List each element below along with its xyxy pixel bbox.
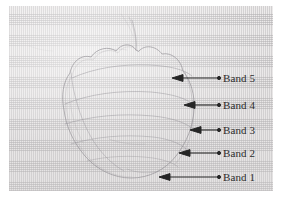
arrowhead-band-2: [179, 150, 190, 157]
leader-arrow-band-4: [184, 102, 221, 109]
figure-annotated-sketch-photo: Band 5 Band 4 Band 3 Band 2 Band 1: [0, 0, 284, 197]
leader-arrow-band-3: [190, 127, 221, 134]
leader-arrow-band-2: [179, 150, 221, 157]
arrowhead-band-4: [184, 102, 195, 109]
leader-dot-band-2: [217, 151, 220, 154]
leader-dot-band-5: [217, 76, 220, 79]
leader-arrow-band-1: [159, 174, 221, 181]
label-band-3: Band 3: [223, 125, 255, 136]
leader-dot-band-1: [217, 175, 220, 178]
label-band-4: Band 4: [223, 100, 255, 111]
arrowhead-band-3: [190, 127, 201, 134]
label-band-1: Band 1: [223, 172, 255, 183]
arrowhead-band-5: [172, 75, 183, 82]
leader-arrow-band-5: [172, 75, 221, 82]
leader-dot-band-3: [217, 128, 220, 131]
arrowhead-band-1: [159, 174, 170, 181]
label-band-2: Band 2: [223, 148, 255, 159]
leader-dot-band-4: [217, 103, 220, 106]
photograph-region: Band 5 Band 4 Band 3 Band 2 Band 1: [9, 6, 273, 191]
label-band-5: Band 5: [223, 73, 255, 84]
